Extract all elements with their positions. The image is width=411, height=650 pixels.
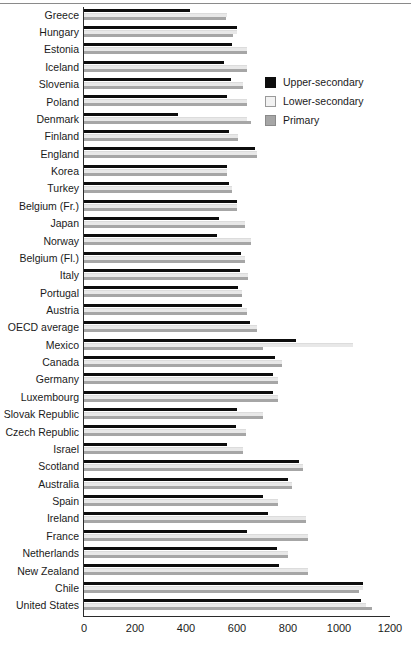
bar-upper [84,530,247,533]
bar-upper [84,443,227,446]
bar-primary [84,103,247,106]
bar-group [84,217,390,234]
bar-group [84,599,390,616]
bar-primary [84,486,292,489]
y-axis-label-austria: Austria [46,305,79,316]
bar-upper [84,356,275,359]
y-axis-label-belgium-fl: Belgium (Fl.) [19,253,79,264]
y-axis-label-turkey: Turkey [47,183,79,194]
bar-upper [84,217,219,220]
bar-group [84,512,390,529]
bar-group [84,547,390,564]
y-axis-label-iceland: Iceland [45,62,79,73]
y-axis-label-portugal: Portugal [40,288,79,299]
bar-upper [84,564,279,567]
bar-primary [84,451,243,454]
bar-primary [84,277,248,280]
bar-primary [84,364,282,367]
bar-primary [84,51,247,54]
bar-upper [84,495,263,498]
bar-upper [84,582,363,585]
y-axis-label-canada: Canada [42,357,79,368]
legend-label-primary: Primary [283,114,319,126]
bar-group [84,495,390,512]
bar-group [84,234,390,251]
bar-upper [84,78,231,81]
y-axis-label-united-states: United States [16,600,79,611]
y-axis-label-slovenia: Slovenia [39,79,79,90]
bar-group [84,478,390,495]
x-tick-600: 600 [228,622,246,634]
bar-primary [84,121,251,124]
bar-upper [84,599,361,602]
bar-primary [84,138,238,141]
bar-upper [84,286,238,289]
bar-primary [84,555,288,558]
y-axis-label-israel: Israel [53,444,79,455]
legend-swatch-primary [265,115,276,126]
legend-label-lower-secondary: Lower-secondary [283,95,364,107]
bar-chart: GreeceHungaryEstoniaIcelandSloveniaPolan… [0,0,411,650]
y-axis-label-japan: Japan [50,218,79,229]
bar-upper [84,113,178,116]
legend-item-upper-secondary: Upper-secondary [265,76,364,88]
bar-upper [84,425,236,428]
x-tick-0: 0 [81,622,87,634]
bar-group [84,373,390,390]
bar-upper [84,95,227,98]
bar-primary [84,416,263,419]
bar-primary [84,69,247,72]
bar-group [84,460,390,477]
x-axis-tick-labels: 020040060080010001200 [0,619,411,639]
bar-group [84,425,390,442]
bar-primary [84,173,227,176]
bar-primary [84,538,308,541]
bar-primary [84,155,257,158]
bar-upper [84,547,277,550]
bar-primary [84,86,243,89]
y-axis-label-finland: Finland [45,131,79,142]
bar-group [84,321,390,338]
bar-upper [84,478,288,481]
legend-item-lower-secondary: Lower-secondary [265,95,364,107]
legend: Upper-secondary Lower-secondary Primary [265,76,364,133]
bar-upper [84,147,255,150]
bar-upper [84,512,268,515]
x-tick-800: 800 [279,622,297,634]
bar-upper [84,391,273,394]
bar-group [84,9,390,26]
x-tick-400: 400 [177,622,195,634]
bar-group [84,304,390,321]
bar-group [84,252,390,269]
x-tick-1000: 1000 [327,622,351,634]
y-axis-label-czech-republic: Czech Republic [5,427,79,438]
bar-primary [84,399,278,402]
y-axis-label-scotland: Scotland [38,461,79,472]
bar-group [84,269,390,286]
bar-upper [84,130,229,133]
bar-upper [84,234,217,237]
bar-upper [84,9,190,12]
bar-primary [84,225,245,228]
bar-upper [84,182,229,185]
bar-group [84,43,390,60]
top-divider-rule [0,3,411,4]
bar-primary [84,260,245,263]
bar-primary [84,520,306,523]
bar-upper [84,304,242,307]
y-axis-label-estonia: Estonia [44,44,79,55]
y-axis-label-chile: Chile [55,583,79,594]
bar-upper [84,165,227,168]
legend-swatch-upper-secondary [265,77,276,88]
bar-upper [84,61,224,64]
bar-upper [84,339,296,342]
y-axis-label-ireland: Ireland [47,513,79,524]
y-axis-label-hungary: Hungary [39,27,79,38]
bar-primary [84,433,246,436]
x-tick-200: 200 [126,622,144,634]
bar-primary [84,17,226,20]
bar-primary [84,503,278,506]
bar-primary [84,347,263,350]
bar-primary [84,34,233,37]
bar-group [84,582,390,599]
